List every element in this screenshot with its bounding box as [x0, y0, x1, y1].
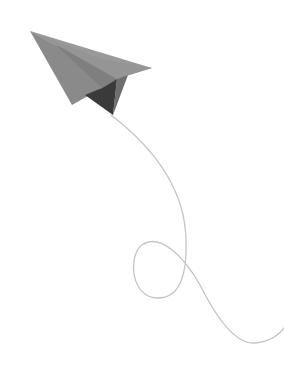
paper-airplane-icon	[30, 31, 152, 115]
illustration-canvas: Paper airplane with trailing string	[0, 0, 284, 370]
paper-airplane-illustration	[0, 0, 284, 370]
flight-trail-line	[111, 115, 284, 343]
